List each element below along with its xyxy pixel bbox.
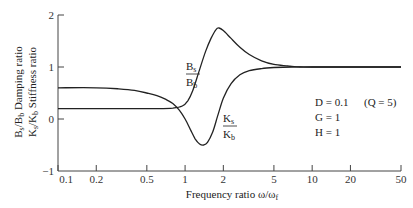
x-tick-label: 10: [307, 173, 319, 185]
annotation-q: (Q = 5): [364, 96, 397, 109]
chart: 0.10.20.5125102050 −1012 Bs Bb Ks Kb D =…: [0, 0, 413, 208]
annotation-g: G = 1: [315, 111, 340, 123]
series-label-damping-num: Bs: [186, 60, 196, 74]
y-tick-label: 0: [49, 113, 55, 125]
series-line-damping-ratio: [58, 28, 401, 109]
y-tick-label: 2: [49, 9, 55, 21]
x-tick-label: 0.1: [59, 173, 73, 185]
x-tick-label: 50: [396, 173, 408, 185]
x-axis-label: Frequency ratio ω/ωf: [186, 188, 279, 202]
axes: [58, 15, 401, 171]
x-tick-label: 5: [271, 173, 277, 185]
parameter-annotations: D = 0.1 (Q = 5) G = 1 H = 1: [315, 96, 397, 138]
y-axis-label: Bs/Bb Damping ratio Ks/Kb Stiffness rati…: [12, 46, 40, 138]
annotation-d: D = 0.1: [315, 96, 348, 108]
y-ticks: −1012: [42, 9, 64, 177]
series-label-stiffness: Ks Kb: [223, 112, 237, 142]
y-tick-label: −1: [42, 165, 54, 177]
y-axis-label-line-2: Ks/Kb Stiffness ratio: [26, 46, 40, 137]
y-axis-label-line-1: Bs/Bb Damping ratio: [12, 46, 26, 138]
x-tick-label: 0.2: [89, 173, 103, 185]
x-tick-label: 20: [345, 173, 357, 185]
series-label-stiffness-den: Kb: [223, 128, 235, 142]
series-label-stiffness-num: Ks: [223, 112, 234, 126]
x-ticks: 0.10.20.5125102050: [58, 165, 407, 185]
series-label-damping-den: Bb: [186, 76, 197, 90]
y-tick-label: 1: [49, 61, 55, 73]
annotation-h: H = 1: [315, 126, 340, 138]
x-tick-label: 2: [221, 173, 227, 185]
x-tick-label: 0.5: [140, 173, 154, 185]
x-tick-label: 1: [182, 173, 188, 185]
